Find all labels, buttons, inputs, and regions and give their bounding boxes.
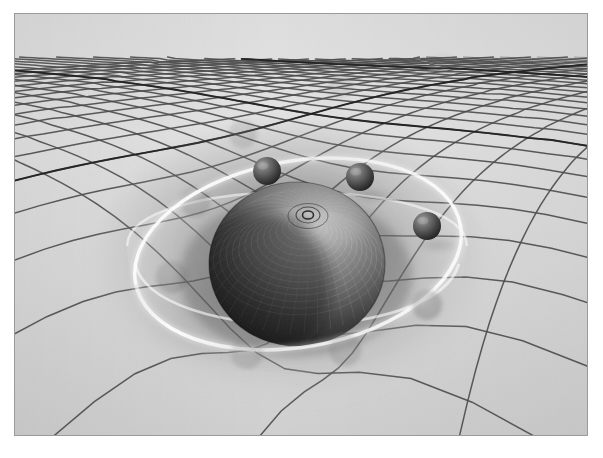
spacetime-figure xyxy=(14,13,588,436)
scene-svg xyxy=(15,14,587,435)
scene-canvas xyxy=(15,14,587,435)
film-grain xyxy=(15,14,587,435)
scene-root xyxy=(15,14,587,435)
figure-stage xyxy=(0,0,603,458)
